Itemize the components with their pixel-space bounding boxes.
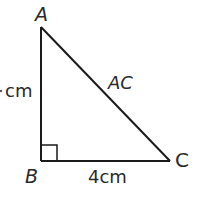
clipped-digit-fragment <box>0 90 2 92</box>
vertex-label-b: B <box>25 165 38 187</box>
right-triangle-diagram: A B C AC 4cm cm <box>0 0 201 197</box>
vertex-label-c: C <box>175 148 189 172</box>
right-angle-marker <box>41 145 57 161</box>
side-label-ac: AC <box>107 72 133 93</box>
side-ac-hypotenuse <box>41 27 170 161</box>
vertex-label-a: A <box>33 3 48 25</box>
side-label-bc: 4cm <box>88 166 127 187</box>
side-label-ab: cm <box>5 80 32 101</box>
